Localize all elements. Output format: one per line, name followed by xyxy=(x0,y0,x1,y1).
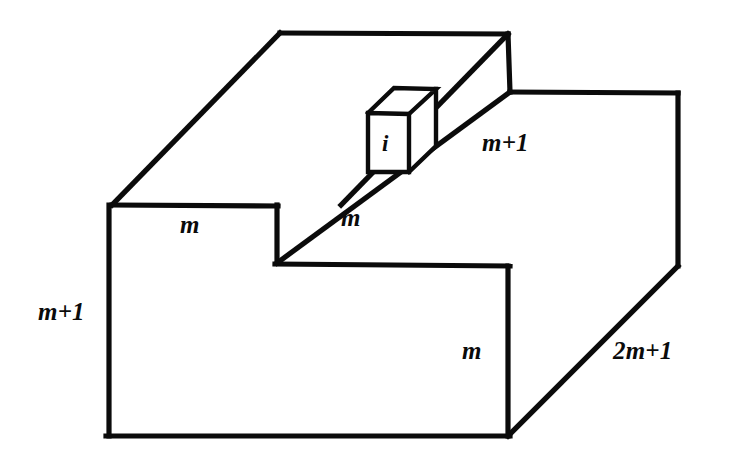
dimension-label-step-depth: m xyxy=(341,205,361,230)
figure-canvas: m+1 m m m+1 m 2m+1 i xyxy=(0,0,747,468)
dimension-label-top-front-depth: m xyxy=(180,212,200,237)
dimension-label-unit-cube: i xyxy=(382,132,389,155)
dimension-label-front-right-height: m xyxy=(462,338,482,363)
dimension-label-upper-right-height: m+1 xyxy=(482,130,529,155)
edge-upper-slab-front-top-m xyxy=(112,205,278,206)
edge-upper-slab-right-vertical-m-plus-1 xyxy=(508,34,510,92)
dimension-label-bottom-right-width: 2m+1 xyxy=(613,338,673,363)
block-diagram-svg xyxy=(0,0,747,468)
edge-step-front-bottom-horizontal xyxy=(275,264,510,266)
dimension-label-left-height: m+1 xyxy=(38,299,85,324)
edge-top-back-upper-slab xyxy=(280,33,508,34)
edge-step-top-back-horizontal xyxy=(510,92,678,93)
